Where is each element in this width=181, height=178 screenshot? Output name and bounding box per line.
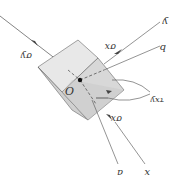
stress-element-diagram: O σy σx y b τxy σx a x <box>0 0 181 178</box>
tau-label: τxy <box>150 96 164 105</box>
axis-x-line <box>115 122 145 164</box>
axis-a-line <box>92 100 118 164</box>
axis-x-label: x <box>144 168 150 178</box>
sigma-x-top-label: σx <box>105 42 116 52</box>
point-o-dot <box>78 78 82 82</box>
sigma-y-label: σy <box>20 51 32 61</box>
axis-a-label: a <box>117 168 123 178</box>
axis-b-label: b <box>160 43 166 54</box>
axis-y-label: y <box>162 17 169 28</box>
diagram-svg: O σy σx y b τxy σx a x <box>0 0 181 178</box>
point-o-label: O <box>65 84 74 97</box>
sigma-x-bottom-label: σx <box>111 114 122 124</box>
